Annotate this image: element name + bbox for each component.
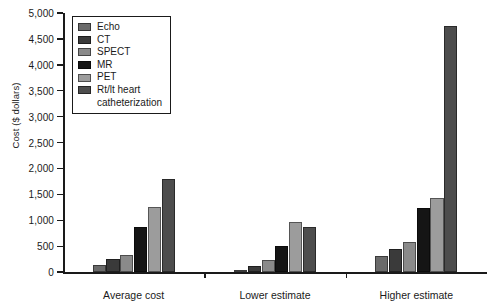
legend-label: Rt/lt heart (97, 84, 140, 97)
bar (430, 198, 443, 272)
y-tick-mark (57, 142, 63, 143)
y-tick-mark (57, 12, 63, 13)
legend-label: MR (97, 59, 113, 72)
y-tick-label: 2,500 (28, 137, 54, 148)
bar (120, 255, 133, 272)
legend-swatch-icon (78, 36, 91, 44)
legend: EchoCTSPECTMRPETRt/lt heartcatheterizati… (72, 16, 171, 114)
bar (162, 179, 175, 272)
y-tick-mark (57, 116, 63, 117)
bar (375, 256, 388, 272)
y-tick-label: 4,500 (28, 33, 54, 44)
bar (417, 208, 430, 272)
legend-label: Echo (97, 21, 120, 34)
y-tick-mark (57, 90, 63, 91)
y-tick-mark (57, 194, 63, 195)
legend-item: Echo (78, 21, 162, 34)
bar (389, 249, 402, 272)
legend-swatch-icon (78, 48, 91, 56)
legend-label: SPECT (97, 46, 130, 59)
y-tick-mark (57, 168, 63, 169)
legend-label: PET (97, 71, 116, 84)
x-axis-label-higher-estimate: Higher estimate (380, 289, 454, 301)
bar (303, 227, 316, 272)
x-axis-label-average-cost: Average cost (103, 289, 164, 301)
bar (148, 207, 161, 272)
bar (134, 227, 147, 272)
legend-label-continuation: catheterization (78, 97, 162, 110)
legend-swatch-icon (78, 23, 91, 31)
y-axis-title: Cost ($ dollars) (10, 61, 21, 171)
legend-item: PET (78, 71, 162, 84)
y-tick-mark (57, 271, 63, 272)
y-tick-label: 1,000 (28, 215, 54, 226)
bar (106, 259, 119, 272)
x-axis-line (63, 272, 487, 274)
x-group-separator (346, 272, 347, 278)
legend-item: CT (78, 34, 162, 47)
bar (289, 222, 302, 272)
bar (234, 270, 247, 272)
bar (262, 260, 275, 272)
bar (444, 26, 457, 272)
y-tick-label: 3,500 (28, 85, 54, 96)
y-tick-label: 4,000 (28, 59, 54, 70)
legend-label: CT (97, 34, 110, 47)
y-tick-label: 500 (37, 241, 54, 252)
legend-item: MR (78, 59, 162, 72)
y-tick-mark (57, 64, 63, 65)
x-group-separator (204, 272, 205, 278)
y-tick-label: 1,500 (28, 189, 54, 200)
y-axis-line (63, 13, 65, 272)
y-tick-label: 2,000 (28, 163, 54, 174)
y-tick-mark (57, 246, 63, 247)
legend-item: SPECT (78, 46, 162, 59)
legend-swatch-icon (78, 74, 91, 82)
legend-item: Rt/lt heart (78, 84, 162, 97)
bar (275, 246, 288, 272)
bar (248, 266, 261, 272)
y-tick-mark (57, 220, 63, 221)
bar (93, 265, 106, 272)
bar (403, 242, 416, 272)
x-axis-label-lower-estimate: Lower estimate (239, 289, 310, 301)
y-tick-label: 3,000 (28, 111, 54, 122)
y-tick-label: 5,000 (28, 8, 54, 19)
y-tick-label: 0 (48, 267, 54, 278)
legend-swatch-icon (78, 86, 91, 94)
y-tick-mark (57, 38, 63, 39)
legend-swatch-icon (78, 61, 91, 69)
